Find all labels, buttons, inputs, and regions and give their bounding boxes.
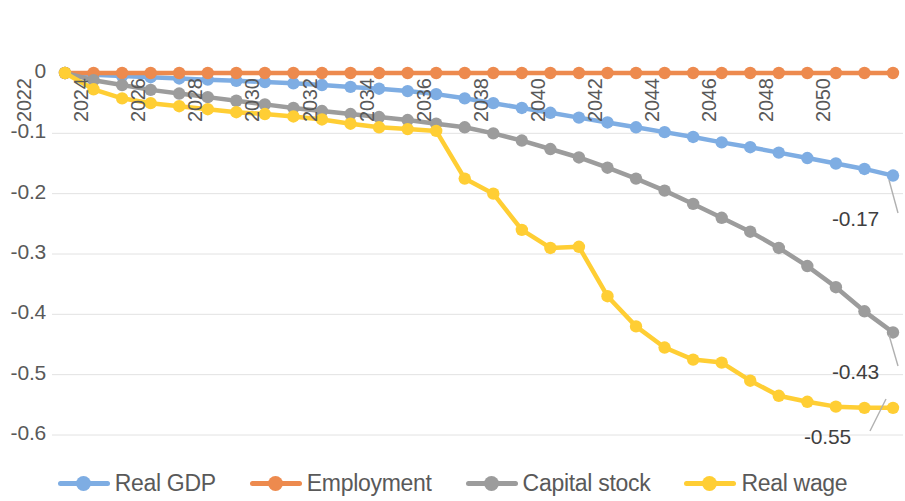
data-point-marker bbox=[858, 305, 870, 317]
x-tick-label: 2042 bbox=[584, 78, 644, 122]
data-point-marker bbox=[830, 157, 842, 169]
data-point-marker bbox=[430, 125, 442, 137]
data-point-marker bbox=[744, 141, 756, 153]
legend-item-capital-stock[interactable]: Capital stock bbox=[466, 470, 651, 497]
data-point-marker bbox=[573, 241, 585, 253]
data-point-marker bbox=[544, 242, 556, 254]
x-tick-label: 2028 bbox=[184, 78, 244, 122]
legend-item-employment[interactable]: Employment bbox=[250, 470, 432, 497]
data-point-marker bbox=[773, 146, 785, 158]
data-point-marker bbox=[601, 290, 613, 302]
data-point-label: -0.55 bbox=[804, 425, 851, 449]
data-point-marker bbox=[715, 356, 727, 368]
data-point-marker bbox=[801, 396, 813, 408]
line-chart: 0-0.1-0.2-0.3-0.4-0.5-0.6 20222024202620… bbox=[0, 0, 905, 501]
x-tick-label: 2032 bbox=[299, 78, 359, 122]
y-tick-label: -0.4 bbox=[0, 300, 46, 324]
data-point-marker bbox=[630, 320, 642, 332]
x-tick-label: 2024 bbox=[70, 78, 130, 122]
chart-legend: Real GDPEmploymentCapital stockReal wage bbox=[0, 466, 905, 501]
data-point-marker bbox=[858, 163, 870, 175]
data-point-marker bbox=[573, 151, 585, 163]
x-tick-label: 2050 bbox=[812, 78, 872, 122]
data-point-label: -0.43 bbox=[832, 360, 879, 384]
data-point-marker bbox=[887, 67, 899, 79]
data-point-marker bbox=[715, 136, 727, 148]
x-tick-label: 2026 bbox=[127, 78, 187, 122]
legend-label: Real wage bbox=[741, 470, 847, 497]
data-point-marker bbox=[373, 121, 385, 133]
data-point-marker bbox=[658, 341, 670, 353]
data-point-marker bbox=[630, 121, 642, 133]
legend-swatch-icon bbox=[250, 473, 302, 495]
x-tick-label: 2030 bbox=[241, 78, 301, 122]
data-point-marker bbox=[715, 212, 727, 224]
data-point-marker bbox=[744, 375, 756, 387]
legend-swatch-icon bbox=[58, 473, 110, 495]
data-point-marker bbox=[487, 187, 499, 199]
data-point-marker bbox=[830, 281, 842, 293]
data-point-marker bbox=[459, 172, 471, 184]
leader-line bbox=[870, 399, 886, 431]
legend-label: Capital stock bbox=[523, 470, 651, 497]
data-point-marker bbox=[487, 127, 499, 139]
data-point-marker bbox=[858, 402, 870, 414]
data-point-marker bbox=[887, 169, 899, 181]
data-point-marker bbox=[801, 152, 813, 164]
x-tick-label: 2036 bbox=[413, 78, 473, 122]
data-point-marker bbox=[801, 260, 813, 272]
x-tick-label: 2040 bbox=[527, 78, 587, 122]
legend-item-real-gdp[interactable]: Real GDP bbox=[58, 470, 216, 497]
data-point-marker bbox=[630, 172, 642, 184]
y-tick-label: -0.5 bbox=[0, 361, 46, 385]
data-point-marker bbox=[773, 242, 785, 254]
legend-label: Employment bbox=[307, 470, 432, 497]
x-tick-label: 2048 bbox=[755, 78, 815, 122]
legend-swatch-icon bbox=[684, 473, 736, 495]
y-tick-label: -0.3 bbox=[0, 240, 46, 264]
data-point-marker bbox=[401, 123, 413, 135]
data-point-marker bbox=[773, 390, 785, 402]
leader-line bbox=[889, 335, 898, 366]
y-tick-label: -0.6 bbox=[0, 421, 46, 445]
x-tick-label: 2038 bbox=[470, 78, 530, 122]
data-point-marker bbox=[516, 224, 528, 236]
gridlines bbox=[52, 73, 903, 435]
data-point-marker bbox=[601, 162, 613, 174]
data-point-marker bbox=[516, 134, 528, 146]
x-tick-label: 2044 bbox=[641, 78, 701, 122]
x-tick-label: 2022 bbox=[13, 78, 73, 122]
plot-area bbox=[0, 0, 905, 501]
data-point-marker bbox=[830, 400, 842, 412]
x-tick-label: 2046 bbox=[698, 78, 758, 122]
data-point-marker bbox=[658, 184, 670, 196]
y-tick-label: -0.2 bbox=[0, 180, 46, 204]
x-tick-label: 2034 bbox=[356, 78, 416, 122]
data-point-marker bbox=[687, 353, 699, 365]
data-point-marker bbox=[744, 225, 756, 237]
legend-label: Real GDP bbox=[115, 470, 216, 497]
data-point-label: -0.17 bbox=[832, 207, 879, 231]
data-point-marker bbox=[459, 121, 471, 133]
legend-swatch-icon bbox=[466, 473, 518, 495]
data-point-marker bbox=[887, 326, 899, 338]
leader-line bbox=[889, 180, 898, 213]
y-tick-label: -0.1 bbox=[0, 119, 46, 143]
legend-item-real-wage[interactable]: Real wage bbox=[684, 470, 847, 497]
data-point-marker bbox=[544, 143, 556, 155]
data-point-marker bbox=[687, 198, 699, 210]
data-point-marker bbox=[887, 402, 899, 414]
data-point-marker bbox=[687, 131, 699, 143]
data-point-marker bbox=[658, 126, 670, 138]
